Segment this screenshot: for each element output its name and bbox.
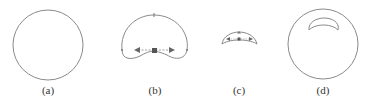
panel-b: (b) <box>95 0 195 105</box>
panel-d-label: (d) <box>303 84 343 96</box>
panel-d: (d) <box>275 0 370 105</box>
arrow-right-icon <box>249 37 253 41</box>
panel-a-label: (a) <box>28 84 68 96</box>
center-marker-icon <box>238 38 241 41</box>
arrow-left-icon <box>134 47 140 53</box>
center-marker-icon <box>152 48 157 53</box>
panel-c-label: (c) <box>219 84 259 96</box>
panel-b-label: (b) <box>135 84 175 96</box>
panel-a: (a) <box>0 0 95 105</box>
arrow-right-icon <box>169 47 175 53</box>
panel-c: (c) <box>190 0 280 105</box>
arrow-left-icon <box>226 37 230 41</box>
